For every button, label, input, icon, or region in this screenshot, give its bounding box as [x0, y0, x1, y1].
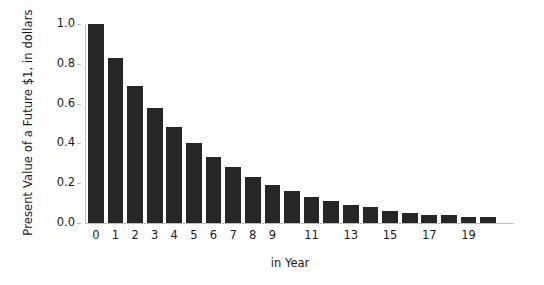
bar: [480, 217, 496, 223]
discount-factor-bar-chart: Present Value of a Future $1, in dollars…: [0, 0, 544, 285]
y-tick-mark: [77, 183, 81, 184]
x-tick-label: 9: [257, 228, 287, 242]
bar: [363, 207, 379, 223]
bar: [284, 191, 300, 223]
x-axis-spine: [86, 223, 514, 224]
bar: [108, 58, 124, 223]
bar: [441, 215, 457, 223]
bar: [88, 24, 104, 223]
x-tick-label: 19: [454, 228, 484, 242]
y-tick-label: 0.4: [15, 135, 75, 149]
bar: [147, 108, 163, 223]
bar: [382, 211, 398, 223]
y-tick-mark: [77, 24, 81, 25]
y-tick-label: 1.0: [15, 16, 75, 30]
y-tick-mark: [77, 223, 81, 224]
y-tick-mark: [77, 64, 81, 65]
bar: [225, 167, 241, 223]
y-tick-label: 0.0: [15, 215, 75, 229]
y-tick-label: 0.6: [15, 96, 75, 110]
bar: [421, 215, 437, 223]
y-tick-label: 0.8: [15, 56, 75, 70]
bar: [245, 177, 261, 223]
y-tick-mark: [77, 143, 81, 144]
bar: [402, 213, 418, 223]
bar: [206, 157, 222, 223]
bar: [323, 201, 339, 223]
x-tick-label: 13: [336, 228, 366, 242]
bar: [461, 217, 477, 223]
bar: [166, 127, 182, 223]
x-axis-title: in Year: [80, 256, 500, 270]
x-tick-label: 15: [375, 228, 405, 242]
y-tick-mark: [77, 104, 81, 105]
plot-area: [86, 24, 498, 223]
bar: [186, 143, 202, 223]
bar: [127, 86, 143, 223]
y-axis-title: Present Value of a Future $1, in dollars: [14, 0, 42, 245]
bar: [304, 197, 320, 223]
x-tick-label: 17: [414, 228, 444, 242]
bar: [265, 185, 281, 223]
y-tick-label: 0.2: [15, 175, 75, 189]
x-tick-label: 11: [297, 228, 327, 242]
bar: [343, 205, 359, 223]
